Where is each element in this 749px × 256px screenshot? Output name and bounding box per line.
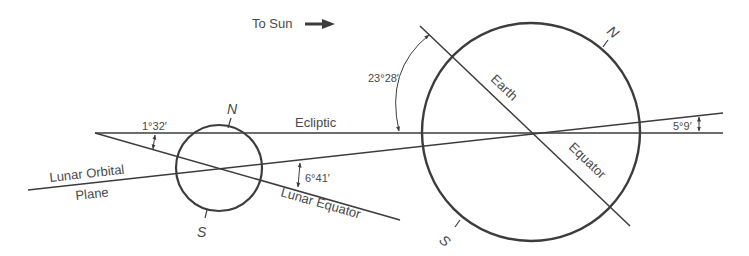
angle-5-9-label: 5°9′ — [673, 120, 692, 132]
ecliptic-label: Ecliptic — [295, 115, 337, 130]
right-arrow-icon — [305, 19, 335, 29]
angle-6-41-label: 6°41′ — [305, 172, 330, 184]
angle-23-28-label: 23°28′ — [368, 72, 399, 84]
lunar-equator-label: Lunar Equator — [279, 184, 363, 221]
angle-arrow-6-41 — [298, 163, 300, 187]
angle-1-32-label: 1°32′ — [142, 120, 167, 132]
earth-north-tick — [603, 40, 608, 47]
moon-south-tick — [205, 210, 207, 218]
lunar-orbital-label: Lunar Orbital — [49, 162, 125, 185]
equator-label: Equator — [566, 139, 610, 182]
plane-label: Plane — [75, 184, 110, 203]
earth-south-label: S — [436, 231, 454, 250]
lunar-orbital-plane-line — [28, 113, 723, 190]
moon-south-label: S — [197, 224, 207, 240]
earth-north-label: N — [604, 23, 623, 42]
moon-north-label: N — [227, 101, 238, 117]
earth-equator-line — [420, 26, 630, 226]
earth-south-tick — [455, 220, 460, 227]
angle-arrow-1-32 — [153, 135, 155, 149]
to-sun-label: To Sun — [252, 16, 292, 31]
earth-label: Earth — [488, 71, 521, 103]
lunar-geometry-diagram: To Sun Ecliptic Lunar Orbital Plane Luna… — [0, 0, 749, 256]
